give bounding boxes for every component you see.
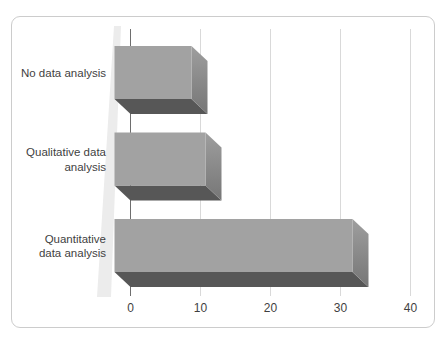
bar-front-face	[115, 133, 206, 186]
bar-bottom-face	[115, 186, 222, 201]
x-axis-tick-label: 40	[404, 301, 417, 315]
bar-front-face	[115, 46, 192, 99]
category-label: Quantitative data analysis	[6, 231, 106, 260]
bar-bottom-face	[115, 272, 369, 287]
x-axis-tick-label: 20	[264, 301, 277, 315]
chart-screenshot: No data analysis Qualitative data analys…	[0, 0, 442, 338]
category-label: Qualitative data analysis	[6, 145, 106, 174]
x-axis-tick-label: 30	[334, 301, 347, 315]
bar-front-face	[115, 219, 353, 272]
bars-layer	[115, 46, 369, 287]
category-label: No data analysis	[6, 65, 106, 80]
x-axis-tick-label: 0	[127, 301, 134, 315]
bar-bottom-face	[115, 99, 208, 114]
x-axis-tick-label: 10	[194, 301, 207, 315]
